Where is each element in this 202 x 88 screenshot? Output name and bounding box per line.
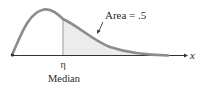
median-label: Median (48, 73, 81, 84)
x-axis-arrow-icon (184, 54, 188, 58)
area-label: Area = .5 (105, 9, 147, 21)
area-pointer-arrow-icon (97, 30, 101, 35)
x-axis-label: x (189, 49, 195, 61)
median-density-diagram: Area = .5 x η Median (0, 0, 202, 88)
shaded-area-right-of-median (63, 19, 165, 56)
median-symbol: η (60, 59, 65, 70)
curve-start-dot (11, 53, 14, 56)
